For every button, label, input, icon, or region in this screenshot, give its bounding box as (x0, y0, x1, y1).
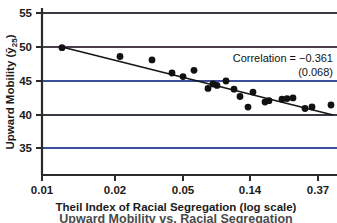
data-point (59, 44, 66, 51)
data-point (266, 97, 273, 104)
y-axis-title-close: ) (4, 34, 16, 38)
data-point (328, 102, 335, 109)
stderr-annotation: (0.068) (298, 66, 333, 78)
y-tick-label-35: 35 (19, 142, 32, 154)
data-point (237, 93, 244, 100)
data-point (169, 70, 176, 77)
figure-caption: Upward Mobility vs. Racial Segregation (59, 212, 292, 223)
data-point (149, 57, 156, 64)
x-tick-label-0: 0.01 (31, 184, 54, 196)
data-point (223, 78, 230, 85)
data-point (290, 95, 297, 102)
data-point (302, 105, 309, 112)
x-tick-label-2: 0.05 (172, 184, 195, 196)
x-tick-label-1: 0.02 (104, 184, 126, 196)
data-point (250, 89, 257, 96)
data-point (284, 95, 291, 102)
correlation-annotation: Correlation = −0.361 (233, 52, 333, 64)
scatter-chart: 55 50 45 40 35 0.01 0.02 0.05 0.14 0.37 … (0, 0, 337, 223)
data-point (180, 73, 187, 80)
data-point (191, 67, 198, 74)
data-point (309, 104, 316, 111)
data-point (231, 86, 238, 93)
y-tick-label-40: 40 (19, 109, 32, 121)
y-axis-title-main: Upward Mobility ( (4, 54, 16, 150)
y-tick-label-55: 55 (19, 7, 32, 19)
figure-container: 55 50 45 40 35 0.01 0.02 0.05 0.14 0.37 … (0, 0, 337, 223)
data-point (245, 104, 252, 111)
y-tick-label-50: 50 (19, 41, 32, 53)
y-tick-label-45: 45 (19, 75, 32, 87)
x-tick-label-4: 0.37 (307, 184, 329, 196)
data-point (117, 53, 124, 60)
x-tick-label-3: 0.14 (239, 184, 262, 196)
data-point (214, 82, 221, 89)
